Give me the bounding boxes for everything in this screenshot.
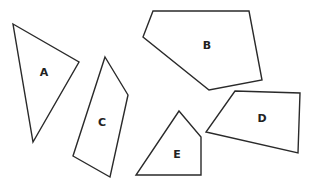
shape-c: C [73,57,128,177]
shapes-diagram: A B C D E [0,0,314,189]
shape-e-label: E [173,148,181,161]
shape-b: B [143,11,262,90]
shape-d: D [206,91,300,153]
shape-e-outline [136,111,201,175]
shape-a: A [13,24,79,142]
shape-e: E [136,111,201,175]
shape-a-label: A [40,66,49,79]
shape-b-label: B [203,39,211,52]
shape-a-outline [13,24,79,142]
shape-d-label: D [257,112,266,125]
shape-d-outline [206,91,300,153]
shape-c-label: C [98,116,106,129]
